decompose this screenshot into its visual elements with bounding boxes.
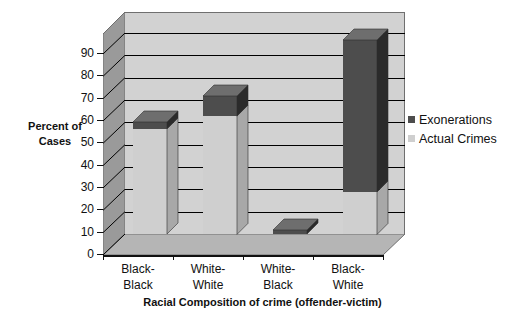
y-tick-label: 20 (68, 203, 94, 215)
legend: ExonerationsActual Crimes (408, 110, 497, 148)
bar-group[interactable] (343, 12, 377, 234)
y-tick-label: 60 (68, 114, 94, 126)
bar-3d-faces (273, 218, 319, 234)
legend-swatch-icon (408, 116, 415, 123)
bar-series-layer (103, 12, 405, 255)
y-tick-label: 30 (68, 181, 94, 193)
bar-3d-faces (203, 84, 249, 116)
x-category-label: Black-Black (102, 261, 174, 293)
y-tick-label: 50 (68, 136, 94, 148)
plot-area (103, 12, 405, 255)
y-tick-label: 10 (68, 226, 94, 238)
x-tick-mark (383, 255, 384, 260)
x-tick-mark (313, 255, 314, 260)
x-category-label-line: Black (242, 277, 314, 293)
x-category-label-line: White- (242, 261, 314, 277)
y-tick-label: 0 (68, 248, 94, 260)
bar-segment-exonerations[interactable] (133, 122, 167, 129)
x-category-label-line: Black- (312, 261, 384, 277)
chart-container: Percent ofCases 0102030405060708090 Blac… (0, 0, 525, 318)
x-category-label-line: Black (102, 277, 174, 293)
legend-swatch-icon (408, 135, 415, 142)
legend-label: Actual Crimes (419, 132, 497, 146)
x-category-label: Black-White (312, 261, 384, 293)
x-category-label-line: White (312, 277, 384, 293)
legend-item[interactable]: Actual Crimes (408, 129, 497, 148)
x-tick-mark (103, 255, 104, 260)
x-category-label-line: White (172, 277, 244, 293)
x-axis-title: Racial Composition of crime (offender-vi… (0, 296, 525, 308)
bar-segment-exonerations[interactable] (343, 40, 377, 192)
y-tick-label: 40 (68, 159, 94, 171)
bar-segment-exonerations[interactable] (203, 96, 237, 116)
bar-segment-exonerations[interactable] (273, 230, 307, 234)
x-category-label-line: White- (172, 261, 244, 277)
bar-segment-actual-crimes[interactable] (133, 129, 167, 234)
y-tick-label: 80 (68, 69, 94, 81)
x-category-label-line: Black- (102, 261, 174, 277)
x-category-label: White-White (172, 261, 244, 293)
y-tick-label: 90 (68, 47, 94, 59)
bar-group[interactable] (133, 12, 167, 234)
bar-group[interactable] (273, 12, 307, 234)
bar-3d-faces (133, 117, 179, 234)
x-tick-mark (173, 255, 174, 260)
bar-3d-faces (343, 28, 389, 192)
x-tick-mark (243, 255, 244, 260)
bar-segment-actual-crimes[interactable] (203, 116, 237, 234)
bar-3d-faces (133, 110, 179, 129)
x-category-label: White-Black (242, 261, 314, 293)
y-tick-label: 70 (68, 92, 94, 104)
bar-group[interactable] (203, 12, 237, 234)
bar-3d-faces (203, 104, 249, 234)
bar-segment-actual-crimes[interactable] (343, 192, 377, 234)
legend-item[interactable]: Exonerations (408, 110, 497, 129)
legend-label: Exonerations (419, 113, 492, 127)
